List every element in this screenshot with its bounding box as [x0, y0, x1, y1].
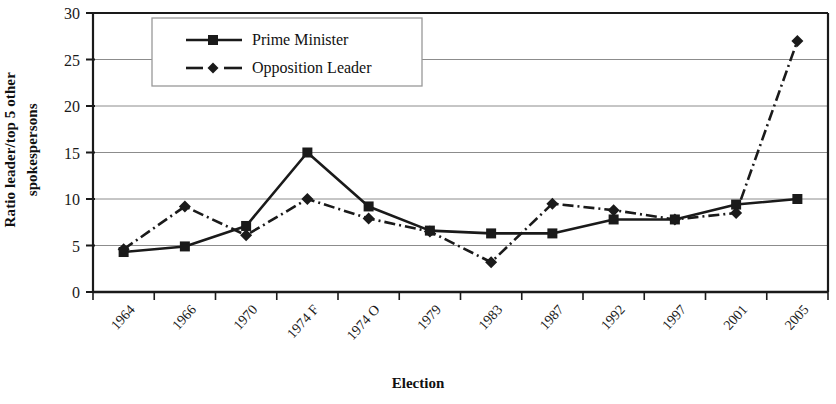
chart-legend: Prime Minister Opposition Leader: [152, 18, 422, 86]
x-axis-tick-label: 1970: [230, 302, 260, 333]
x-axis-tick-label: 1979: [414, 302, 444, 333]
line-chart-plot: 051015202530 1964196619701974 F1974 O197…: [0, 0, 836, 404]
legend-marker-square: [208, 35, 218, 45]
series-line: [124, 153, 798, 253]
x-axis-tick-label: 2005: [782, 302, 812, 333]
x-axis-title: Election: [0, 375, 836, 392]
data-point-marker: [363, 213, 375, 225]
y-axis-tick-label: 10: [64, 191, 80, 208]
x-axis-tick-label: 1997: [659, 302, 689, 333]
x-axis-tick-label: 1964: [108, 302, 138, 333]
x-axis-tick-label: 2001: [720, 302, 750, 333]
y-tick-group: 051015202530: [64, 5, 95, 301]
data-point-marker: [486, 228, 496, 238]
x-tick-group: 1964196619701974 F1974 O1979198319871992…: [93, 292, 828, 343]
series-prime-minister: [119, 148, 803, 258]
data-point-marker: [364, 201, 374, 211]
data-point-marker: [608, 204, 620, 216]
y-axis-tick-label: 0: [72, 284, 80, 301]
x-axis-tick-label: 1966: [169, 302, 199, 333]
y-axis-tick-label: 15: [64, 145, 80, 162]
x-axis-tick-label: 1992: [598, 302, 628, 333]
x-axis-tick-label: 1974 F: [284, 302, 322, 341]
legend-label-opposition-leader: Opposition Leader: [252, 59, 372, 77]
data-point-marker: [302, 148, 312, 158]
x-axis-tick-label: 1974 O: [344, 302, 383, 343]
x-axis-tick-label: 1987: [537, 302, 567, 333]
y-axis-tick-label: 20: [64, 98, 80, 115]
y-axis-tick-label: 25: [64, 52, 80, 69]
chart-figure: Ratio leader/top 5 other spokespersons 0…: [0, 0, 836, 404]
data-point-marker: [791, 35, 803, 47]
data-point-marker: [180, 241, 190, 251]
gridlines-group: [93, 60, 828, 246]
x-axis-tick-label: 1983: [475, 302, 505, 333]
data-point-marker: [547, 228, 557, 238]
data-point-marker: [792, 194, 802, 204]
data-point-marker: [301, 193, 313, 205]
data-point-marker: [240, 229, 252, 241]
y-axis-tick-label: 30: [64, 5, 80, 22]
y-axis-tick-label: 5: [72, 238, 80, 255]
legend-box: [152, 18, 422, 86]
legend-label-prime-minister: Prime Minister: [252, 31, 349, 48]
